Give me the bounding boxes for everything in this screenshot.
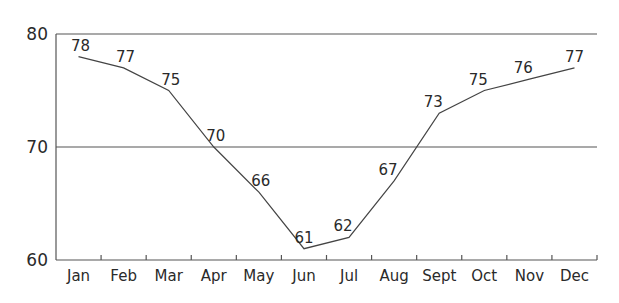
data-label: 77 (565, 48, 584, 66)
line-chart: 607080 JanFebMarAprMayJunJulAugSeptOctNo… (0, 0, 619, 303)
x-tick-label: Apr (201, 267, 228, 285)
data-label: 67 (379, 161, 398, 179)
x-tick-label: Mar (155, 267, 184, 285)
x-tick-label: Aug (379, 267, 408, 285)
data-label: 70 (206, 127, 225, 145)
data-labels: 787775706661626773757677 (71, 37, 584, 247)
x-tick-label: Sept (422, 267, 456, 285)
data-label: 61 (294, 229, 313, 247)
y-tick-label: 80 (26, 24, 48, 44)
y-tick-label: 70 (26, 137, 48, 157)
data-label: 78 (71, 37, 90, 55)
x-tick-label: Oct (471, 267, 497, 285)
gridlines (56, 34, 597, 147)
y-tick-label: 60 (26, 250, 48, 270)
x-tick-label: Feb (110, 267, 137, 285)
x-tick-label: Nov (515, 267, 544, 285)
x-tick-label: Jan (66, 267, 90, 285)
data-series (79, 57, 575, 249)
x-tick-label: Jun (291, 267, 315, 285)
data-label: 76 (514, 59, 533, 77)
x-tick-label: Dec (560, 267, 589, 285)
data-label: 66 (251, 172, 270, 190)
series-line (79, 57, 575, 249)
data-label: 75 (161, 71, 180, 89)
data-label: 77 (116, 48, 135, 66)
data-label: 75 (469, 71, 488, 89)
x-tick-label: May (243, 267, 274, 285)
x-tick-label: Jul (339, 267, 358, 285)
data-label: 62 (333, 217, 352, 235)
y-axis-ticks: 607080 (26, 24, 48, 270)
data-label: 73 (424, 93, 443, 111)
x-axis-ticks: JanFebMarAprMayJunJulAugSeptOctNovDec (66, 267, 589, 285)
